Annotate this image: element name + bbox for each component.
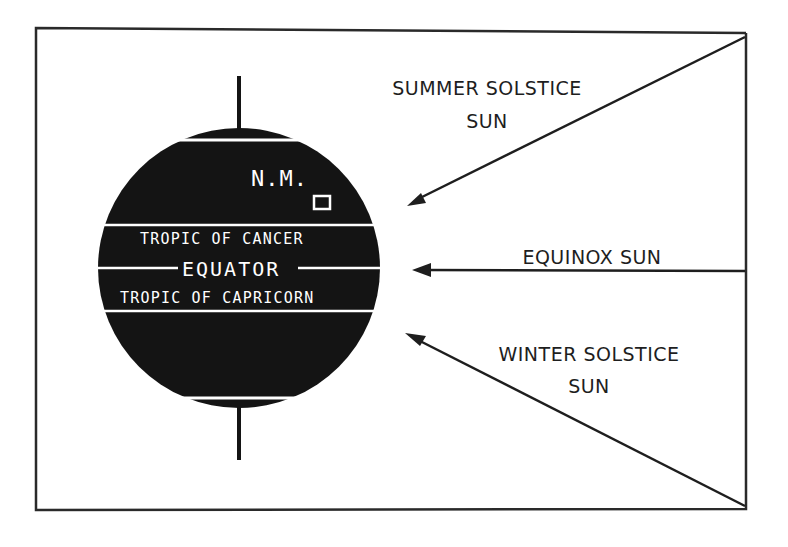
summer-solstice-label: SUMMER SOLSTICE SUN [372,76,602,133]
summer-solstice-label-line2: SUN [372,109,602,133]
tropic-of-cancer-label: TROPIC OF CANCER [140,230,304,248]
tropic-of-capricorn-label: TROPIC OF CAPRICORN [120,289,314,307]
summer-solstice-label-line1: SUMMER SOLSTICE [372,76,602,100]
nm-label: N.M. [251,166,308,191]
winter-solstice-label-line1: WINTER SOLSTICE [484,342,694,366]
winter-solstice-label: WINTER SOLSTICE SUN [484,342,694,398]
equinox-label: EQUINOX SUN [512,245,672,269]
equator-label: EQUATOR [182,257,280,281]
winter-solstice-label-line2: SUN [484,374,694,398]
